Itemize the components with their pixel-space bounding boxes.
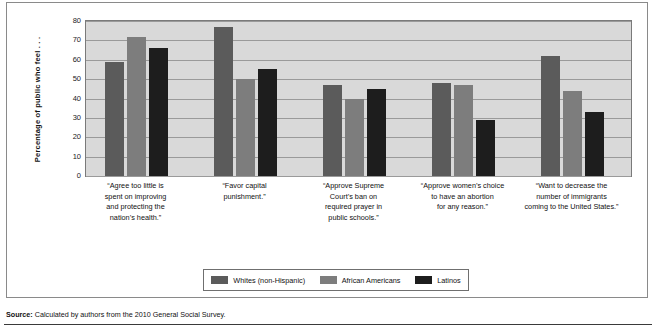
bar — [214, 27, 233, 176]
bar — [585, 112, 604, 176]
bar-group — [413, 21, 522, 176]
x-axis-category-label: “Want to decrease thenumber of immigrant… — [502, 181, 642, 213]
chart-frame: Percentage of public who feel . . . 0102… — [6, 2, 648, 298]
x-axis-category-label-line: “Approve Supreme — [292, 181, 416, 192]
y-axis-tick-label: 30 — [57, 112, 81, 121]
x-axis-category-label: “Favor capitalpunishment.” — [190, 181, 300, 202]
bar — [236, 79, 255, 176]
legend: Whites (non-Hispanic)African AmericansLa… — [203, 269, 469, 291]
x-axis-category-label-line: and protecting the — [70, 202, 202, 213]
y-axis-tick-labels: 01020304050607080 — [55, 20, 81, 177]
bottom-divider — [4, 324, 652, 325]
bar — [367, 89, 386, 176]
x-axis-category-label-line: “Favor capital — [190, 181, 300, 192]
legend-item[interactable]: African Americans — [320, 276, 401, 285]
y-axis-tick-label: 10 — [57, 151, 81, 160]
y-axis-tick-label: 20 — [57, 132, 81, 141]
y-axis-tick-label: 50 — [57, 74, 81, 83]
bar-group — [522, 21, 631, 176]
source-note: Source: Calculated by authors from the 2… — [6, 310, 226, 319]
bar-group — [86, 21, 195, 176]
legend-swatch-icon — [415, 276, 432, 284]
source-label: Source: — [6, 310, 33, 319]
x-axis-category-label: “Agree too little isspent on improvingan… — [70, 181, 202, 223]
y-axis-tick-label: 70 — [57, 35, 81, 44]
legend-item[interactable]: Latinos — [415, 276, 461, 285]
legend-label: African Americans — [342, 276, 401, 285]
gridline — [86, 176, 631, 177]
legend-swatch-icon — [211, 276, 228, 284]
x-axis-category-label-line: spent on improving — [70, 192, 202, 203]
x-axis-category-label-line: “Agree too little is — [70, 181, 202, 192]
bar — [563, 91, 582, 176]
source-text: Calculated by authors from the 2010 Gene… — [35, 310, 226, 319]
legend-label: Latinos — [437, 276, 461, 285]
y-axis-tick-label: 40 — [57, 93, 81, 102]
bar — [541, 56, 560, 176]
figure-container: Percentage of public who feel . . . 0102… — [0, 0, 656, 330]
bar — [258, 69, 277, 176]
bar — [127, 37, 146, 177]
bar-group — [195, 21, 304, 176]
x-axis-category-label-line: Court’s ban on — [292, 192, 416, 203]
bar — [432, 83, 451, 176]
bar — [149, 48, 168, 176]
x-axis-category-labels: “Agree too little isspent on improvingan… — [85, 181, 632, 243]
bar — [476, 120, 495, 176]
bar — [105, 62, 124, 176]
legend-item[interactable]: Whites (non-Hispanic) — [211, 276, 305, 285]
x-axis-category-label-line: number of immigrants — [502, 192, 642, 203]
x-axis-category-label-line: public schools.” — [292, 213, 416, 224]
y-axis-tick-label: 80 — [57, 16, 81, 25]
x-axis-category-label-line: punishment.” — [190, 192, 300, 203]
y-axis-tick-label: 60 — [57, 54, 81, 63]
legend-swatch-icon — [320, 276, 337, 284]
plot-area — [85, 20, 632, 177]
y-axis-tick-label: 0 — [57, 171, 81, 180]
bar — [345, 99, 364, 177]
x-axis-category-label-line: nation’s health.” — [70, 213, 202, 224]
bars-layer — [86, 21, 631, 176]
bar-group — [304, 21, 413, 176]
x-axis-category-label: “Approve SupremeCourt’s ban onrequired p… — [292, 181, 416, 223]
bar — [454, 85, 473, 176]
x-axis-category-label-line: “Want to decrease the — [502, 181, 642, 192]
x-axis-category-label-line: coming to the United States.” — [502, 202, 642, 213]
bar — [323, 85, 342, 176]
y-axis-title: Percentage of public who feel . . . — [33, 20, 42, 180]
legend-label: Whites (non-Hispanic) — [233, 276, 305, 285]
x-axis-category-label-line: required prayer in — [292, 202, 416, 213]
